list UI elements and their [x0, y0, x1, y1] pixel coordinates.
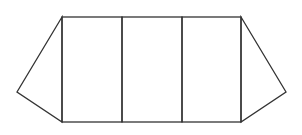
rect-1 — [62, 17, 122, 122]
left-triangle — [17, 17, 62, 122]
diagram-canvas — [0, 0, 302, 135]
net-shapes — [17, 17, 286, 122]
rect-3 — [182, 17, 241, 122]
rect-2 — [122, 17, 182, 122]
prism-net-diagram — [0, 0, 302, 135]
right-triangle — [241, 17, 286, 122]
